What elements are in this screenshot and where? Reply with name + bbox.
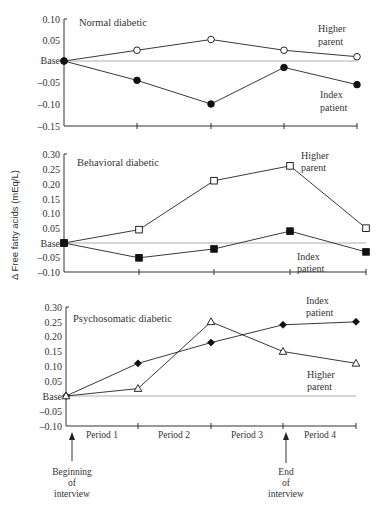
y-tick: –0.10: [37, 267, 61, 278]
data-point-marker: [354, 53, 361, 60]
series-line: [64, 61, 357, 104]
data-point-marker: [61, 240, 68, 247]
series-label-index: Index: [320, 89, 343, 100]
y-tick-labels: 0.30 0.25 0.20 0.15 0.10 0.05 Base –0.05…: [39, 302, 63, 432]
data-point-marker: [207, 318, 215, 325]
y-tick: –0.15: [37, 121, 61, 132]
data-point-marker: [211, 177, 218, 184]
chart-figure: Δ Free fatty acids (mEq/L) 0.10 0.05 Bas…: [0, 0, 383, 513]
data-point-marker: [287, 228, 294, 235]
data-point-marker: [135, 360, 142, 367]
y-axis-label: Δ Free fatty acids (mEq/L): [9, 170, 20, 280]
annotation-end: interview: [268, 489, 304, 499]
y-tick-labels: 0.30 0.25 0.20 0.15 0.10 0.05 Base –0.05…: [37, 149, 61, 278]
series-label-higher: Higher: [301, 150, 329, 161]
data-point-marker: [61, 58, 68, 65]
arrow-up-icon: [69, 432, 75, 461]
period-label: Period 3: [231, 430, 263, 440]
data-point-marker: [208, 101, 215, 108]
data-point-marker: [208, 36, 215, 43]
period-label: Period 4: [304, 430, 336, 440]
annotation-beginning: interview: [54, 489, 90, 499]
panel-title: Behavioral diabetic: [77, 157, 159, 168]
series-label-parent: parent: [307, 381, 332, 392]
y-tick: –0.10: [39, 421, 63, 432]
y-tick: –0.05: [39, 406, 63, 417]
series-label-index: Index: [297, 251, 320, 262]
y-tick: 0.30: [43, 149, 61, 160]
y-tick: 0.25: [43, 164, 61, 175]
data-point-marker: [136, 226, 143, 233]
period-label: Period 1: [86, 430, 118, 440]
y-tick: 0.05: [43, 223, 61, 234]
y-tick: Base: [41, 55, 61, 66]
data-point-marker: [134, 47, 141, 54]
y-tick: 0.10: [43, 14, 61, 25]
annotation-beginning: Beginning: [52, 467, 92, 477]
y-tick: 0.05: [45, 376, 63, 387]
data-point-marker: [363, 225, 370, 232]
data-point-marker: [287, 163, 294, 170]
panel-psychosomatic-diabetic: 0.30 0.25 0.20 0.15 0.10 0.05 Base –0.05…: [39, 295, 360, 499]
data-point-marker: [353, 318, 360, 325]
y-tick-labels: 0.10 0.05 Base –0.05 –0.10 –0.15: [37, 14, 61, 132]
series-label-index: Index: [306, 295, 329, 306]
data-point-marker: [354, 81, 361, 88]
panel-normal-diabetic: 0.10 0.05 Base –0.05 –0.10 –0.15 Normal …: [37, 14, 361, 132]
annotation-end: End: [278, 467, 294, 477]
panel-behavioral-diabetic: 0.30 0.25 0.20 0.15 0.10 0.05 Base –0.05…: [37, 149, 370, 278]
y-tick: –0.10: [37, 99, 61, 110]
y-tick: 0.15: [45, 346, 63, 357]
series-label-higher: Higher: [307, 369, 335, 380]
annotation-beginning: of: [68, 478, 77, 488]
y-tick: 0.20: [43, 179, 61, 190]
y-tick: 0.15: [43, 194, 61, 205]
data-point-marker: [279, 348, 287, 355]
data-point-marker: [136, 255, 143, 262]
series-label-patient: patient: [320, 102, 347, 113]
series-label-patient: patient: [297, 263, 324, 274]
data-point-marker: [281, 47, 288, 54]
series-label-parent: parent: [301, 162, 326, 173]
y-tick: 0.10: [45, 361, 63, 372]
y-tick: 0.05: [43, 35, 61, 46]
data-point-marker: [134, 77, 141, 84]
data-point-marker: [280, 321, 287, 328]
y-tick: –0.05: [37, 252, 61, 263]
series-label-higher: Higher: [318, 23, 346, 34]
y-tick: 0.30: [45, 302, 63, 313]
series-label-parent: parent: [318, 36, 343, 47]
annotation-end: of: [282, 478, 291, 488]
data-point-marker: [208, 339, 215, 346]
arrow-up-icon: [283, 432, 289, 463]
panel-title: Normal diabetic: [79, 17, 147, 28]
y-tick: Base: [43, 391, 63, 402]
panel-title: Psychosomatic diabetic: [73, 313, 172, 324]
y-tick: 0.20: [45, 331, 63, 342]
data-point-marker: [281, 64, 288, 71]
chart-svg: Δ Free fatty acids (mEq/L) 0.10 0.05 Bas…: [0, 0, 383, 513]
data-point-marker: [363, 249, 370, 256]
y-tick: 0.10: [43, 208, 61, 219]
series-label-patient: patient: [306, 307, 333, 318]
y-tick: 0.25: [45, 317, 63, 328]
data-point-marker: [211, 246, 218, 253]
y-tick: –0.05: [37, 77, 61, 88]
period-label: Period 2: [158, 430, 190, 440]
y-tick: Base: [41, 238, 61, 249]
